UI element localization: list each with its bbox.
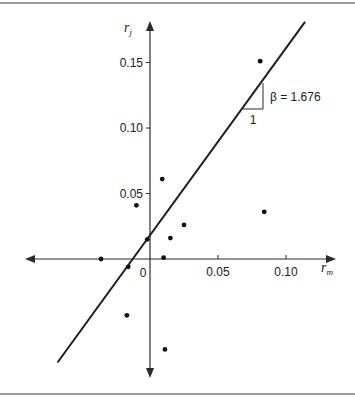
beta-label: β = 1.676 (270, 90, 321, 104)
x-axis-label: rm (321, 260, 333, 277)
scatter-chart: 0.050.100.050.100.15 0 rj rm β = 1.676 1 (0, 0, 355, 398)
y-axis-label: rj (124, 20, 132, 37)
x-axis-right-arrow-icon (326, 255, 336, 263)
data-point (99, 257, 104, 262)
y-axis-down-arrow-icon (146, 368, 154, 378)
axes (25, 21, 336, 378)
y-axis-up-arrow-icon (146, 21, 154, 31)
data-point (163, 347, 168, 352)
data-point (124, 313, 129, 318)
x-tick-label: 0.05 (206, 265, 230, 279)
x-tick-label: 0.10 (274, 265, 298, 279)
y-tick-label: 0.10 (120, 121, 144, 135)
data-point (145, 237, 150, 242)
regression-line-path (58, 22, 306, 363)
data-point (182, 223, 187, 228)
data-point (161, 255, 166, 260)
slope-annotation (243, 83, 263, 109)
slope-triangle (243, 83, 263, 109)
data-point (168, 236, 173, 241)
data-point (126, 264, 131, 269)
y-tick-label: 0.15 (120, 56, 144, 70)
data-point (262, 209, 267, 214)
x-axis-left-arrow-icon (25, 255, 35, 263)
data-point (160, 177, 165, 182)
origin-label: 0 (140, 266, 147, 280)
data-point (258, 59, 263, 64)
data-points (99, 59, 267, 352)
data-point (134, 203, 139, 208)
regression-line (58, 22, 306, 363)
run-label: 1 (250, 113, 257, 127)
y-tick-label: 0.05 (120, 187, 144, 201)
